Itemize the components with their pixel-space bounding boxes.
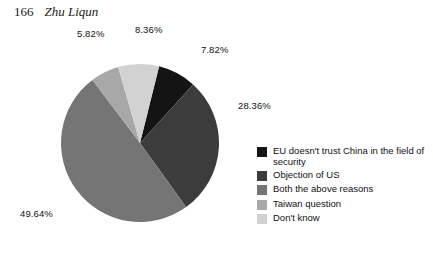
- legend-item-dont-know[interactable]: Don't know: [257, 213, 433, 224]
- legend-swatch-icon: [257, 147, 267, 157]
- legend-item-label: Objection of US: [273, 170, 340, 181]
- legend-item-label: Both the above reasons: [273, 184, 373, 195]
- legend-swatch-icon: [257, 171, 267, 181]
- legend-item-both-the-above-reasons[interactable]: Both the above reasons: [257, 184, 433, 195]
- legend-item-taiwan-question[interactable]: Taiwan question: [257, 199, 433, 210]
- legend-item-label: Taiwan question: [273, 199, 341, 210]
- legend-item-eu-doesnt-trust-china[interactable]: EU doesn't trust China in the field of s…: [257, 146, 433, 167]
- value-label-taiwan-question: 5.82%: [77, 28, 104, 39]
- pie-svg: [60, 63, 220, 223]
- page-canvas: 166Zhu Liqun 7.82% 28.36% 49.64% 5.82% 8…: [0, 0, 433, 256]
- value-label-objection-of-us: 28.36%: [238, 100, 271, 111]
- legend-item-label: Don't know: [273, 213, 320, 224]
- value-label-dont-know: 8.36%: [135, 24, 162, 35]
- pie-chart: 7.82% 28.36% 49.64% 5.82% 8.36% EU doesn…: [0, 0, 433, 256]
- legend-item-label: EU doesn't trust China in the field of s…: [273, 146, 433, 167]
- value-label-both-the-above-reasons: 49.64%: [20, 208, 53, 219]
- legend: EU doesn't trust China in the field of s…: [257, 146, 433, 227]
- legend-item-objection-of-us[interactable]: Objection of US: [257, 170, 433, 181]
- value-label-eu-doesnt-trust-china: 7.82%: [201, 44, 228, 55]
- legend-swatch-icon: [257, 185, 267, 195]
- pie-slices: [61, 64, 219, 222]
- legend-swatch-icon: [257, 200, 267, 210]
- legend-swatch-icon: [257, 214, 267, 224]
